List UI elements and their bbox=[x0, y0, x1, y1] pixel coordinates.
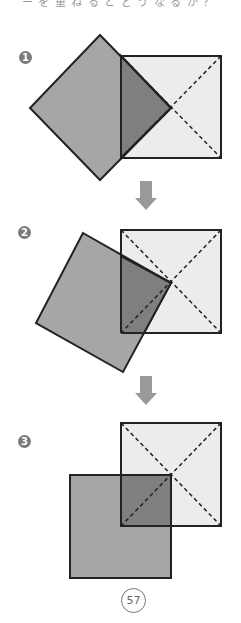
page-number: 57 bbox=[121, 588, 146, 613]
step-badge-1: 1 bbox=[19, 51, 32, 64]
step-badge-3: 3 bbox=[18, 435, 31, 448]
step-1-diagram bbox=[30, 35, 221, 180]
down-arrow-icon-2 bbox=[135, 376, 157, 405]
overlapping-squares-diagram bbox=[0, 0, 241, 623]
step-2-diagram bbox=[36, 230, 221, 372]
step-3-diagram bbox=[70, 423, 221, 578]
down-arrow-icon-1 bbox=[135, 181, 157, 210]
step-badge-2: 2 bbox=[18, 226, 31, 239]
